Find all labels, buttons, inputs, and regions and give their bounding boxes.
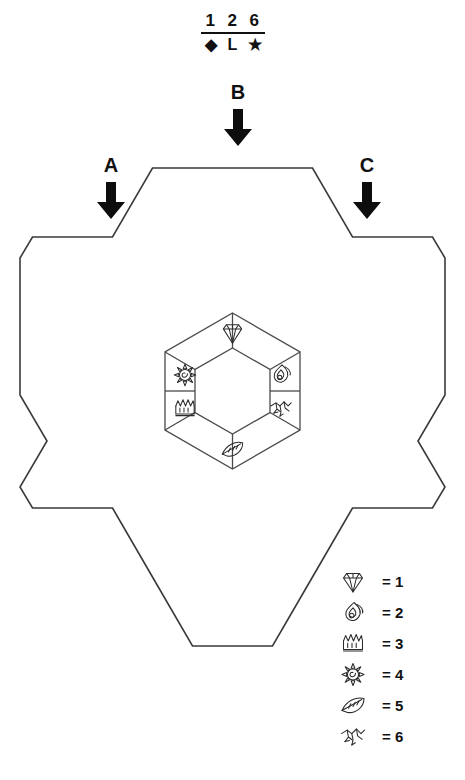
arrow-marker-a[interactable]: A	[88, 155, 134, 220]
flame-icon	[336, 599, 370, 626]
legend-row-crown: = 3	[336, 628, 446, 659]
legend-row-bird: = 6	[336, 721, 446, 752]
legend-value-leaf: = 5	[382, 698, 403, 713]
arrow-label-b: B	[231, 82, 245, 102]
symbol-legend: = 1 = 2	[336, 566, 446, 752]
diamond-icon	[336, 568, 370, 595]
legend-row-flame: = 2	[336, 597, 446, 628]
legend-value-flame: = 2	[382, 605, 403, 620]
legend-value-crown: = 3	[382, 636, 403, 651]
legend-value-sun: = 4	[382, 667, 403, 682]
down-arrow-icon	[223, 109, 253, 147]
down-arrow-icon	[352, 182, 382, 220]
legend-row-diamond: = 1	[336, 566, 446, 597]
legend-value-bird: = 6	[382, 729, 403, 744]
legend-row-sun: = 4	[336, 659, 446, 690]
arrow-label-c: C	[360, 155, 374, 175]
arrow-marker-c[interactable]: C	[344, 155, 390, 220]
legend-row-leaf: = 5	[336, 690, 446, 721]
puzzle-canvas: 1 2 6 ◆ L ★	[0, 0, 465, 780]
down-arrow-icon	[96, 182, 126, 220]
crown-icon	[336, 630, 370, 657]
sun-icon	[336, 661, 370, 688]
arrow-label-a: A	[104, 155, 118, 175]
arrow-marker-b[interactable]: B	[215, 82, 261, 147]
legend-value-diamond: = 1	[382, 574, 403, 589]
leaf-icon	[336, 692, 370, 719]
bird-icon	[336, 723, 370, 750]
